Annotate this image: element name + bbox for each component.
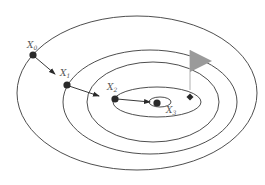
iterate-points: [29, 51, 160, 106]
contour-ellipse-outer: [17, 16, 257, 170]
label-x1: X1: [59, 68, 70, 79]
step-arrow-x0-x1: [35, 57, 55, 74]
contour-ellipse-3: [87, 62, 219, 142]
point-x3: [153, 99, 160, 106]
label-x2: X2: [106, 82, 117, 93]
point-x0: [29, 51, 36, 58]
goal-flag: [190, 50, 212, 90]
minimum-marker-diamond: [186, 93, 193, 100]
label-x3: X3: [165, 105, 176, 116]
contour-lines: [17, 16, 257, 170]
step-arrow-x2-x3: [117, 99, 150, 102]
point-x1: [63, 81, 70, 88]
step-arrow-x1-x2: [69, 86, 99, 96]
gradient-descent-diagram: X0 X1 X2 X3: [0, 0, 265, 185]
label-x0: X0: [26, 40, 37, 51]
flag-icon: [190, 50, 212, 72]
point-x2: [111, 95, 118, 102]
